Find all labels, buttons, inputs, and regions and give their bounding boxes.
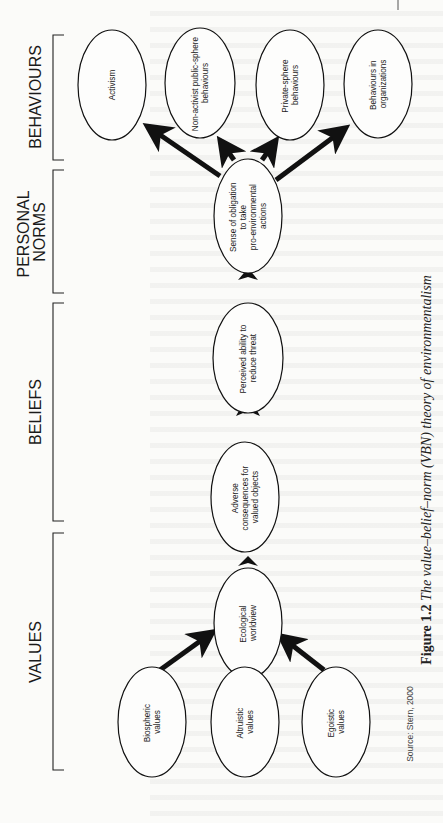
- bracket-personal-norms: [53, 170, 64, 293]
- node-activism: Activism: [78, 30, 146, 140]
- figure-caption: Figure 1.2 The value–belief–norm (VBN) t…: [419, 275, 435, 665]
- node-behaviours-in-organizations: Behaviours in organizations: [344, 30, 412, 138]
- node-non-activist-public-sphere: Non-activist public-sphere behaviours: [165, 28, 235, 138]
- node-altruistic-values: Altruistic values: [211, 667, 279, 777]
- arrow-egoistic-to-worldview: [283, 638, 324, 670]
- node-private-sphere: Private-sphere behaviours: [256, 30, 324, 140]
- figure-source: Source: Stern, 2000: [405, 686, 415, 762]
- bracket-values: [53, 533, 64, 770]
- svg-text:Egoistic values: Egoistic values: [327, 707, 346, 738]
- node-sense-of-obligation: Sense of obligation to take pro-environm…: [214, 159, 282, 273]
- arrow-obligation-to-non-activist: [222, 143, 234, 160]
- arrow-biospheric-to-worldview: [160, 634, 210, 670]
- category-label-values: VALUES: [27, 621, 44, 683]
- category-label-personal-norms: PERSONAL NORMS: [15, 187, 48, 278]
- node-perceived-ability: Perceived ability to reduce threat: [213, 303, 283, 413]
- bracket-beliefs: [53, 303, 64, 521]
- svg-text:Private-sphere behaviour: Private-sphere behaviours: [281, 57, 300, 113]
- node-egoistic-values: Egoistic values: [302, 667, 370, 777]
- svg-text:Behaviours in organizati: Behaviours in organizations: [369, 58, 388, 110]
- category-label-beliefs: BELIEFS: [27, 379, 44, 445]
- node-ecological-worldview: Ecological worldview: [214, 568, 282, 678]
- svg-text:Ecological worldview: Ecological worldview: [239, 603, 258, 643]
- arrow-obligation-to-private-sphere: [262, 143, 274, 160]
- bracket-behaviours: [53, 35, 64, 160]
- arrowhead-worldview-to-adverse: [238, 556, 258, 566]
- category-label-behaviours: BEHAVIOURS: [27, 45, 44, 149]
- vbn-diagram: BEHAVIOURS PERSONAL NORMS BELIEFS VALUES…: [0, 0, 443, 823]
- node-adverse-consequences: Adverse consequences for valued objects: [211, 442, 279, 552]
- svg-text:Altruistic values: Altruistic values: [236, 705, 255, 738]
- node-biospheric-values: Biospheric values: [118, 667, 186, 777]
- svg-text:Activism: Activism: [108, 70, 117, 101]
